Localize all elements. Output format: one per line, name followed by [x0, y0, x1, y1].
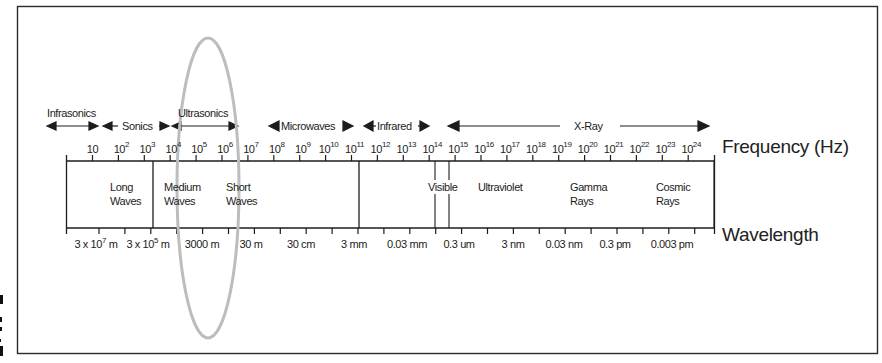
- frequency-tick-label: 108: [269, 143, 285, 155]
- wavelength-label: 0.003 pm: [651, 238, 694, 250]
- frequency-ticks: [93, 155, 689, 161]
- band-long-waves: Long Waves: [110, 180, 141, 208]
- wavelength-label: 0.03 mm: [387, 238, 427, 250]
- band-ultraviolet: Ultraviolet: [478, 180, 523, 194]
- wavelength-label: 3 x 105 m: [126, 238, 169, 250]
- frequency-tick-label: 1016: [474, 143, 494, 155]
- band-cosmic-line2: Rays: [656, 194, 690, 208]
- band-short-line1: Short: [226, 180, 257, 194]
- wavelength-label: 0.03 nm: [546, 238, 583, 250]
- wavelength-label: 0.3 pm: [599, 238, 630, 250]
- wavelength-label: 30 m: [240, 238, 263, 250]
- frequency-tick-label: 107: [243, 143, 259, 155]
- frequency-tick-label: 103: [140, 143, 156, 155]
- band-cosmic-line1: Cosmic: [656, 180, 690, 194]
- frequency-tick-label: 1023: [656, 143, 676, 155]
- range-label-ultrasonics: Ultrasonics: [178, 107, 228, 119]
- frequency-tick-label: 1018: [526, 143, 546, 155]
- wavelength-ticks: [99, 228, 695, 234]
- frequency-tick-label: 102: [114, 143, 130, 155]
- wavelength-label: 3000 m: [185, 238, 219, 250]
- range-label-microwaves: Microwaves: [281, 120, 335, 132]
- frequency-tick-label: 1020: [578, 143, 598, 155]
- frequency-tick-label: 1015: [448, 143, 468, 155]
- wavelength-axis-title: Wavelength: [722, 224, 819, 246]
- frequency-tick-label: 104: [165, 143, 181, 155]
- wavelength-label: 3 nm: [502, 238, 525, 250]
- frequency-tick-label: 1013: [397, 143, 417, 155]
- band-long-line1: Long: [110, 180, 141, 194]
- band-visible: Visible: [428, 180, 457, 194]
- frequency-tick-label: 1019: [552, 143, 572, 155]
- wavelength-label: 30 cm: [287, 238, 315, 250]
- frequency-tick-label: 10: [87, 143, 98, 155]
- wavelength-label: 3 x 107 m: [74, 238, 117, 250]
- frequency-tick-label: 1011: [345, 143, 364, 155]
- spectrum-diagram: Infrasonics Sonics Ultrasonics Microwave…: [0, 0, 882, 363]
- frequency-tick-label: 106: [217, 143, 233, 155]
- band-cosmic-rays: Cosmic Rays: [656, 180, 690, 208]
- frequency-tick-label: 1014: [422, 143, 442, 155]
- range-label-sonics: Sonics: [122, 120, 153, 132]
- wavelength-label: 0.3 um: [443, 238, 474, 250]
- frequency-tick-label: 1012: [371, 143, 391, 155]
- range-label-infrasonics: Infrasonics: [47, 107, 96, 119]
- band-medium-waves: Medium Waves: [164, 180, 201, 208]
- band-short-waves: Short Waves: [226, 180, 257, 208]
- edge-marks: [0, 295, 3, 356]
- band-gamma-rays: Gamma Rays: [570, 180, 607, 208]
- range-label-x-ray: X-Ray: [574, 120, 603, 132]
- band-long-line2: Waves: [110, 194, 141, 208]
- frequency-tick-label: 1017: [500, 143, 520, 155]
- band-gamma-line2: Rays: [570, 194, 607, 208]
- frequency-axis-title: Frequency (Hz): [722, 136, 849, 158]
- frequency-tick-label: 1021: [604, 143, 624, 155]
- frequency-tick-label: 1024: [681, 143, 701, 155]
- band-short-line2: Waves: [226, 194, 257, 208]
- band-medium-line2: Waves: [164, 194, 201, 208]
- band-gamma-line1: Gamma: [570, 180, 607, 194]
- band-medium-line1: Medium: [164, 180, 201, 194]
- range-label-infrared: Infrared: [377, 120, 412, 132]
- frequency-tick-label: 105: [191, 143, 207, 155]
- frequency-tick-label: 1010: [319, 143, 339, 155]
- wavelength-label: 3 mm: [341, 238, 367, 250]
- frequency-tick-label: 1022: [630, 143, 650, 155]
- frequency-tick-label: 109: [295, 143, 311, 155]
